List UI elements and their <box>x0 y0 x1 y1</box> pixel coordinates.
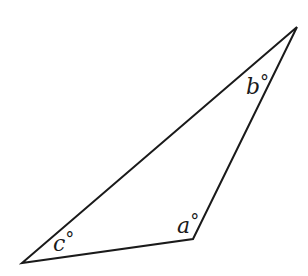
angle-a-variable: a <box>177 213 190 238</box>
angle-b-degree-symbol: ° <box>260 71 269 92</box>
angle-a-degree-symbol: ° <box>190 210 199 231</box>
angle-c-label: c° <box>53 228 74 256</box>
angle-c-degree-symbol: ° <box>65 228 74 249</box>
angle-b-label: b° <box>246 71 269 99</box>
triangle-diagram: a° b° c° <box>0 0 308 276</box>
angle-b-variable: b <box>246 74 260 99</box>
triangle-outline <box>22 27 297 263</box>
angle-c-variable: c <box>53 231 65 256</box>
